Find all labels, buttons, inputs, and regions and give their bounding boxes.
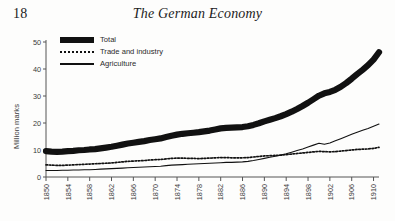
y-tick-label: 50 [33,38,41,47]
chart-figure: Million marks Total Trade and industry A… [0,26,395,221]
x-tick-label: 1882 [216,184,225,200]
x-tick-label: 1850 [42,184,51,200]
y-tick-label: 40 [33,65,41,74]
x-tick-label: 1890 [260,184,269,200]
x-tick-label: 1910 [369,184,378,200]
x-tick-label: 1870 [151,184,160,200]
y-tick-label: 0 [37,173,41,182]
x-tick-label: 1906 [347,184,356,200]
x-tick-label: 1866 [129,184,138,200]
y-tick-label: 10 [33,146,41,155]
y-tick-label: 20 [33,119,41,128]
x-tick-label: 1894 [282,184,291,200]
x-tick-label: 1858 [85,184,94,200]
x-tick-label: 1886 [238,184,247,200]
x-tick-label: 1898 [304,184,313,200]
x-tick-label: 1874 [173,184,182,200]
x-tick-label: 1878 [195,184,204,200]
x-tick-label: 1854 [64,184,73,200]
x-axis: 1850185418581862186618701874187818821886… [42,177,379,200]
x-tick-label: 1862 [107,184,116,200]
book-page: 18 The German Economy Million marks Tota… [0,0,395,221]
chart-plot: 01020304050 1850185418581862186618701874… [0,26,395,221]
x-tick-label: 1902 [326,184,335,200]
y-axis: 01020304050 [33,38,46,182]
running-head-title: The German Economy [0,6,395,22]
y-tick-label: 30 [33,92,41,101]
series-line-total [46,52,379,152]
chart-series-group [46,52,379,170]
